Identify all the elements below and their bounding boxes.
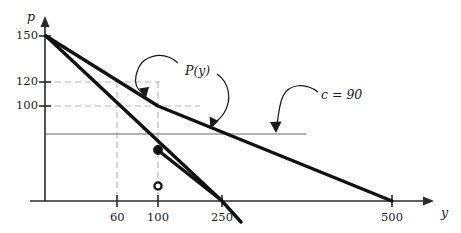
cost-line-label: c = 90: [321, 89, 362, 102]
tick-label-p-150: 150: [16, 30, 38, 42]
annotation-arrow-P-right: [210, 74, 229, 129]
p-axis-label: p: [27, 11, 35, 24]
y-axis-label: y: [441, 207, 448, 220]
tick-label-y-100: 100: [147, 212, 169, 224]
guide-lines: [45, 82, 200, 201]
tick-label-y-500: 500: [381, 212, 403, 224]
open-point-marker: [154, 182, 161, 189]
annotation-arrow-P-left: [135, 56, 178, 100]
marginal-revenue-segment: [159, 151, 221, 200]
demand-curve-label: P(y): [185, 65, 210, 78]
tick-label-p-100: 100: [16, 100, 38, 112]
tick-label-p-120: 120: [16, 76, 38, 88]
annotation-arrow-c90: [270, 86, 318, 133]
tick-label-y-250: 250: [211, 212, 233, 224]
filled-point-marker: [154, 146, 162, 154]
p-axis-arrowhead: [41, 16, 50, 27]
economics-figure: 150 120 100 60 100 250 500 p y P(y) c = …: [0, 0, 461, 233]
figure-canvas: [0, 0, 461, 233]
tick-label-y-60: 60: [110, 212, 125, 224]
y-axis-arrowhead: [423, 197, 434, 206]
